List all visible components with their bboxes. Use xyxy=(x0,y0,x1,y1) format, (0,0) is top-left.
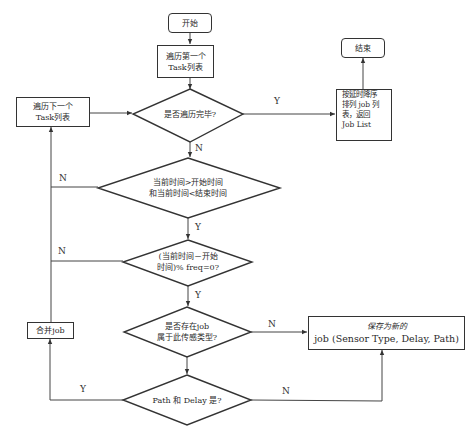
edge-label-job-exists-no: N xyxy=(268,319,276,329)
sort-line3: 表，返回 xyxy=(342,110,370,120)
decision-time-window: 当前时间>开始时间 和当前时间<结束时间 xyxy=(118,176,258,200)
edge-label-all-traversed-yes: Y xyxy=(274,96,280,106)
sort-line1: 按延时降序 xyxy=(342,90,377,100)
time-window-line1: 当前时间>开始时间 xyxy=(153,177,224,188)
traverse-next-node: 遍历下一个 Task列表 xyxy=(16,97,90,127)
traverse-next-line1: 遍历下一个 xyxy=(33,101,73,112)
edge-label-freq-check-no: N xyxy=(58,246,66,256)
sort-line4: Job List xyxy=(342,120,371,130)
edge-label-all-traversed-no: N xyxy=(195,143,203,153)
merge-job-label: 合并job xyxy=(36,325,64,336)
all-traversed-label: 是否遍历完毕? xyxy=(164,109,216,120)
edge-label-freq-check-yes: Y xyxy=(195,290,201,300)
decision-job-exists: 是否存在job 属于此传感类型? xyxy=(137,320,237,344)
job-exists-line2: 属于此传感类型? xyxy=(157,332,217,343)
save-new-job-node: 保存为新的 job (Sensor Type, Delay, Path) xyxy=(308,316,465,350)
freq-check-line2: 时间)% freq=0? xyxy=(157,262,219,273)
sort-return-node: 按延时降序 排列 job 列 表，返回 Job List xyxy=(336,89,392,141)
decision-path-delay: Path 和 Delay 是? xyxy=(137,393,237,407)
merge-job-node: 合并job xyxy=(27,322,74,339)
traverse-first-line1: 遍历第一个 xyxy=(166,51,206,62)
save-new-line2: job (Sensor Type, Delay, Path) xyxy=(314,333,459,345)
traverse-first-node: 遍历第一个 Task列表 xyxy=(157,45,214,78)
edge-label-time-window-yes: Y xyxy=(195,222,201,232)
freq-check-line1: (当前时间－开始 xyxy=(158,251,217,262)
start-node: 开始 xyxy=(168,13,212,33)
edge-label-path-delay-no: N xyxy=(282,386,290,396)
connector-lines xyxy=(0,0,470,439)
end-label: 结束 xyxy=(355,43,371,54)
end-node: 结束 xyxy=(341,38,385,58)
path-delay-label: Path 和 Delay 是? xyxy=(152,395,221,406)
edge-label-time-window-no: N xyxy=(59,173,67,183)
traverse-next-line2: Task列表 xyxy=(36,112,70,123)
start-label: 开始 xyxy=(182,18,198,29)
traverse-first-line2: Task列表 xyxy=(168,62,202,73)
edge-label-path-delay-yes: Y xyxy=(80,384,86,394)
job-exists-line1: 是否存在job xyxy=(165,321,209,332)
save-new-line1: 保存为新的 xyxy=(367,321,407,333)
decision-freq-check: (当前时间－开始 时间)% freq=0? xyxy=(138,250,238,274)
sort-line2: 排列 job 列 xyxy=(342,100,379,110)
decision-all-traversed: 是否遍历完毕? xyxy=(140,107,240,121)
time-window-line2: 和当前时间<结束时间 xyxy=(149,188,228,199)
